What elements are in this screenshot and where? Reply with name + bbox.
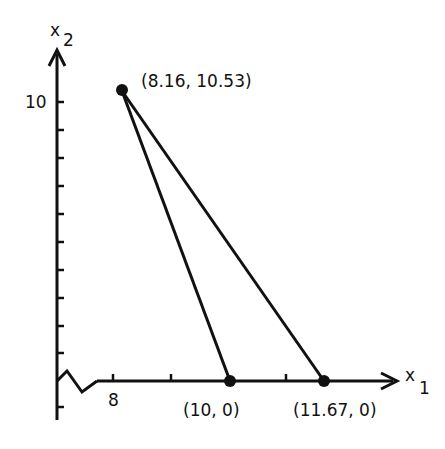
point-label-top: (8.16, 10.53): [141, 73, 252, 90]
point-11-67-0: [318, 375, 330, 387]
y-axis-label: x: [50, 22, 60, 39]
diagram-canvas: [0, 0, 445, 449]
segment-top-to-11-67-0: [122, 91, 324, 381]
y-tick-label-10: 10: [25, 94, 47, 111]
x-tick-label-8: 8: [108, 392, 119, 409]
y-axis-label-subscript: 2: [63, 32, 74, 49]
segment-top-to-10-0: [122, 91, 230, 381]
x-axis-label: x: [405, 367, 415, 384]
point-label-11-67-0: (11.67, 0): [293, 402, 377, 419]
x-axis-label-subscript: 1: [419, 380, 430, 397]
point-10-0: [224, 375, 236, 387]
point-top: [116, 84, 128, 96]
point-label-10-0: (10, 0): [183, 402, 240, 419]
x-axis-break: [57, 371, 97, 392]
